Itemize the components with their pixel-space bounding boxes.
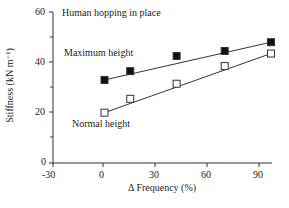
x-tick-30: 30 <box>149 169 159 180</box>
y-tick-60: 60 <box>35 6 45 17</box>
data-point <box>221 48 228 55</box>
x-tick-0: 0 <box>99 169 104 180</box>
series-line <box>105 54 272 113</box>
y-axis-label: Stiffness (kN m⁻¹) <box>4 48 15 122</box>
x-tick-60: 60 <box>201 169 211 180</box>
series-label-max: Maximum height <box>64 47 133 58</box>
data-point <box>173 53 180 60</box>
data-point <box>127 95 134 102</box>
series-label-normal: Normal height <box>72 118 130 129</box>
y-tick-40: 40 <box>35 56 45 67</box>
chart-title: Human hopping in place <box>62 7 161 18</box>
data-point <box>101 109 108 116</box>
y-tick-20: 20 <box>35 106 45 117</box>
x-tick-90: 90 <box>253 169 263 180</box>
y-tick-0: 0 <box>41 156 46 167</box>
data-point <box>127 68 134 75</box>
x-tick-neg30: -30 <box>42 169 55 180</box>
x-axis-label: Δ Frequency (%) <box>128 182 196 193</box>
data-point <box>221 63 228 70</box>
data-point <box>268 50 275 57</box>
data-point <box>268 39 275 46</box>
data-point <box>173 80 180 87</box>
data-point <box>101 76 108 83</box>
